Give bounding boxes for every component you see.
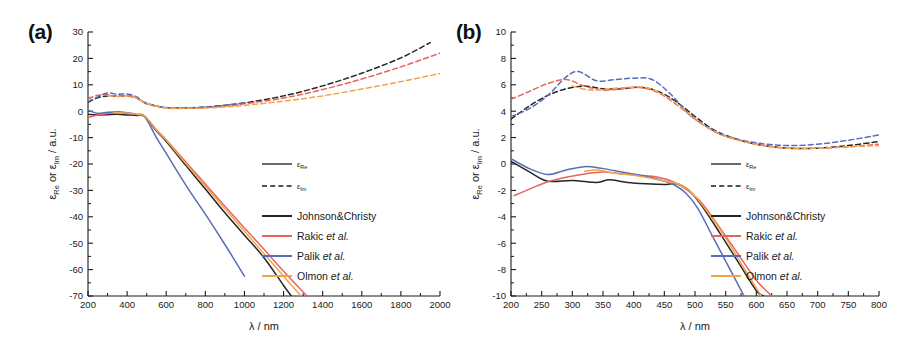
x-tick-label: 450 — [656, 299, 672, 310]
legend-linestyle-label: εRe — [746, 160, 756, 170]
x-tick-label: 650 — [779, 299, 795, 310]
panel-b: (b) 200250300350400450500550600650700750… — [461, 0, 922, 348]
legend: εReεImJohnson&ChristyRakic et al.Palik e… — [262, 160, 377, 282]
legend-series-label: Palik et al. — [297, 250, 345, 262]
series-line — [511, 86, 879, 148]
series-line — [511, 159, 744, 296]
y-tick-label: -8 — [498, 264, 506, 275]
x-tick-label: 300 — [564, 299, 580, 310]
y-tick-label: -10 — [69, 132, 83, 143]
y-tick-label: -6 — [498, 238, 506, 249]
x-tick-label: 800 — [197, 299, 213, 310]
y-tick-label: 0 — [501, 158, 506, 169]
x-tick-label: 1400 — [312, 299, 333, 310]
y-tick-label: 0 — [78, 106, 83, 117]
y-axis-title: εRe or εIm / a.u. — [469, 128, 484, 199]
x-tick-label: 550 — [718, 299, 734, 310]
legend: εReεImJohnson&ChristyRakic et al.Palik e… — [711, 160, 826, 282]
x-tick-label: 700 — [810, 299, 826, 310]
x-tick-label: 600 — [748, 299, 764, 310]
y-tick-label: 4 — [501, 106, 506, 117]
plot-group: 2004006008001000120014001600180020003020… — [46, 26, 451, 332]
y-tick-label: 10 — [495, 26, 506, 37]
legend-series-label: Olmon et al. — [746, 270, 803, 282]
legend-linestyle-label: εIm — [297, 182, 307, 192]
legend-linestyle-label: εRe — [297, 160, 307, 170]
x-axis-title: λ / nm — [680, 320, 710, 332]
legend-series-label: Olmon et al. — [297, 270, 354, 282]
y-tick-label: -50 — [69, 238, 83, 249]
series-line — [511, 79, 879, 148]
y-tick-label: 10 — [72, 79, 83, 90]
data-series-group — [511, 71, 879, 296]
legend-series-label: Johnson&Christy — [746, 210, 826, 222]
x-tick-label: 1800 — [390, 299, 411, 310]
y-axis-title: εRe or εIm / a.u. — [46, 128, 61, 199]
legend-series-label: Rakic et al. — [746, 230, 798, 242]
series-line — [108, 73, 440, 108]
y-tick-label: 30 — [72, 26, 83, 37]
y-tick-label: 8 — [501, 53, 506, 64]
y-tick-label: -10 — [492, 290, 506, 301]
y-tick-label: 6 — [501, 79, 506, 90]
x-tick-label: 750 — [840, 299, 856, 310]
legend-series-label: Rakic et al. — [297, 230, 349, 242]
y-tick-label: 20 — [72, 53, 83, 64]
x-tick-label: 400 — [119, 299, 135, 310]
series-line — [113, 112, 301, 296]
legend-series-label: Palik et al. — [746, 250, 794, 262]
series-line — [88, 113, 307, 296]
x-tick-label: 2000 — [429, 299, 450, 310]
y-tick-label: -4 — [498, 211, 506, 222]
x-tick-label: 250 — [534, 299, 550, 310]
y-axis-title-text: εRe or εIm / a.u. — [46, 128, 61, 199]
legend-linestyle-label: εIm — [746, 182, 756, 192]
panel-b-plot: 2002503003504004505005506006507007508001… — [461, 0, 922, 348]
y-tick-label: -30 — [69, 185, 83, 196]
x-tick-label: 400 — [626, 299, 642, 310]
series-line — [88, 114, 291, 296]
x-tick-label: 600 — [158, 299, 174, 310]
x-tick-label: 1600 — [351, 299, 372, 310]
y-tick-label: 2 — [501, 132, 506, 143]
x-tick-label: 800 — [871, 299, 887, 310]
y-tick-label: -40 — [69, 211, 83, 222]
y-tick-label: -60 — [69, 264, 83, 275]
y-axis-title-text: εRe or εIm / a.u. — [469, 128, 484, 199]
series-line — [572, 86, 879, 148]
panel-a-plot: 2004006008001000120014001600180020003020… — [0, 0, 461, 348]
y-tick-label: -2 — [498, 185, 506, 196]
x-axis-title: λ / nm — [249, 320, 279, 332]
series-line — [88, 110, 244, 276]
panel-a: (a) 200400600800100012001400160018002000… — [0, 0, 461, 348]
x-tick-label: 500 — [687, 299, 703, 310]
series-line — [511, 71, 879, 145]
x-tick-label: 350 — [595, 299, 611, 310]
y-tick-label: -70 — [69, 290, 83, 301]
x-tick-label: 1200 — [273, 299, 294, 310]
series-line — [514, 172, 772, 296]
x-tick-label: 1000 — [234, 299, 255, 310]
y-tick-label: -20 — [69, 158, 83, 169]
legend-series-label: Johnson&Christy — [297, 210, 377, 222]
plot-group: 2002503003504004505005506006507007508001… — [469, 26, 887, 332]
data-series-group — [88, 43, 440, 296]
figure-container: (a) 200400600800100012001400160018002000… — [0, 0, 922, 348]
